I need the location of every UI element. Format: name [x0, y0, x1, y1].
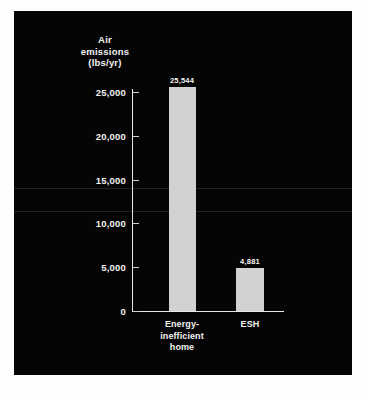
category-label-line: inefficient — [160, 331, 204, 343]
y-tick-mark — [133, 267, 139, 268]
bar[interactable] — [169, 87, 196, 311]
category-label-line: Energy- — [160, 319, 204, 331]
bar[interactable] — [236, 268, 264, 311]
y-axis-line — [132, 89, 133, 312]
plot-area: 05,00010,00015,00020,00025,000 25,5444,8… — [14, 11, 352, 375]
y-tick-label: 20,000 — [52, 130, 126, 141]
y-tick-mark — [133, 136, 139, 137]
bar-value-label: 25,544 — [170, 76, 194, 85]
category-label: ESH — [241, 319, 260, 331]
y-tick-label: 5,000 — [52, 262, 126, 273]
category-label-line: ESH — [241, 319, 260, 331]
y-tick-mark — [133, 223, 139, 224]
y-tick-mark — [133, 92, 139, 93]
y-tick-label: 0 — [52, 306, 126, 317]
y-tick-label: 10,000 — [52, 218, 126, 229]
y-tick-label: 15,000 — [52, 174, 126, 185]
category-label: Energy-inefficienthome — [160, 319, 204, 354]
bar-value-label: 4,881 — [240, 257, 260, 266]
chart-panel: Air emissions (lbs/yr) 05,00010,00015,00… — [14, 11, 352, 375]
x-axis-line — [132, 311, 284, 312]
y-tick-mark — [133, 180, 139, 181]
y-tick-label: 25,000 — [52, 87, 126, 98]
category-label-line: home — [160, 342, 204, 354]
figure: Air emissions (lbs/yr) 05,00010,00015,00… — [0, 0, 365, 393]
y-tick-mark — [133, 311, 139, 312]
